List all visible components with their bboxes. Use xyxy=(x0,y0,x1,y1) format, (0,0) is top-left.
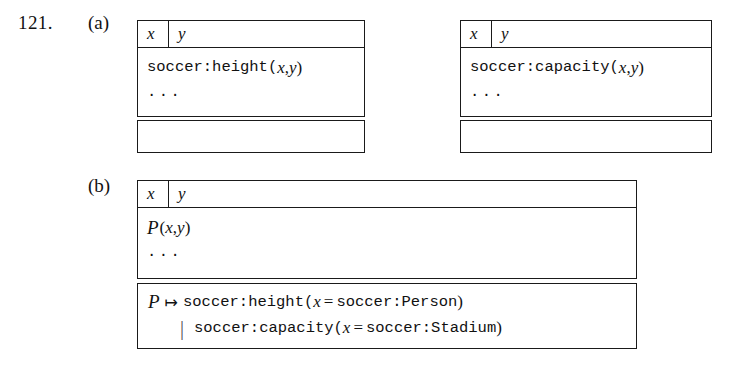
table-predicate-variable-relation: x y P(x, y) ... P↦soccer:height(x=soccer… xyxy=(137,180,637,349)
table-capacity-relation: x y soccer:capacity(x, y) ... xyxy=(460,20,712,153)
atom-arg1: x xyxy=(165,219,173,236)
table-capacity-footer xyxy=(460,120,712,153)
atom-arg1: x xyxy=(277,59,285,76)
rule-variable: x xyxy=(343,318,351,338)
atom-prefix: soccer:capacity( xyxy=(470,60,619,76)
atom-suffix: ) xyxy=(297,59,303,76)
equals-sign: = xyxy=(321,292,337,312)
rule-functor: soccer:capacity( xyxy=(194,319,343,337)
column-header-x: x xyxy=(461,21,492,47)
rule-close-paren: ) xyxy=(496,318,502,338)
atom-close-paren: ) xyxy=(185,219,191,236)
table-row: soccer:height(x, y) xyxy=(147,55,355,80)
figure-page: { "figure": { "number": "121.", "sub_lab… xyxy=(0,0,744,386)
atom-arg2: y xyxy=(177,219,185,236)
table-predicate-main: x y P(x, y) ... xyxy=(137,180,637,279)
rule-variable: x xyxy=(313,292,321,312)
sub-figure-label-a: (a) xyxy=(88,12,109,34)
equals-sign: = xyxy=(350,318,366,338)
rule-lhs-predicate-variable: P xyxy=(148,291,161,313)
table-height-header-row: x y xyxy=(138,21,364,48)
column-header-x: x xyxy=(138,21,169,47)
atom-predicate-variable: P xyxy=(147,218,160,237)
rule-value: soccer:Stadium xyxy=(366,319,496,337)
column-header-y: y xyxy=(169,21,364,47)
rule-close-paren: ) xyxy=(457,292,463,312)
table-height-footer-content xyxy=(138,121,364,147)
table-predicate-header-row: x y xyxy=(138,181,636,208)
atom-suffix: ) xyxy=(638,59,644,76)
rule-value: soccer:Person xyxy=(336,293,457,311)
atom-arg1: x xyxy=(619,59,627,76)
atom-arg2: y xyxy=(289,59,297,76)
table-row-ellipsis: ... xyxy=(147,240,627,265)
sub-figure-label-b: (b) xyxy=(88,175,110,197)
table-height-main: x y soccer:height(x, y) ... xyxy=(137,20,365,117)
table-capacity-main: x y soccer:capacity(x, y) ... xyxy=(460,20,712,117)
table-height-body: soccer:height(x, y) ... xyxy=(138,48,364,116)
table-capacity-body: soccer:capacity(x, y) ... xyxy=(461,48,711,116)
table-row: P(x, y) xyxy=(147,215,627,240)
column-header-x: x xyxy=(138,181,169,207)
table-capacity-header-row: x y xyxy=(461,21,711,48)
figure-number: 121. xyxy=(18,12,53,34)
atom-arg2: y xyxy=(631,59,639,76)
rule-line-primary: P↦soccer:height(x=soccer:Person) xyxy=(138,289,636,315)
table-height-footer xyxy=(137,120,365,153)
column-header-y: y xyxy=(492,21,711,47)
table-predicate-footer-rule: P↦soccer:height(x=soccer:Person) |soccer… xyxy=(137,283,637,349)
table-predicate-body: P(x, y) ... xyxy=(138,208,636,278)
table-height-relation: x y soccer:height(x, y) ... xyxy=(137,20,365,153)
rule-functor: soccer:height( xyxy=(183,293,313,311)
table-row: soccer:capacity(x, y) xyxy=(470,55,702,80)
table-row-ellipsis: ... xyxy=(470,80,702,105)
rule-line-alternative: |soccer:capacity(x=soccer:Stadium) xyxy=(138,315,636,341)
atom-prefix: soccer:height( xyxy=(147,60,277,76)
column-header-y: y xyxy=(169,181,636,207)
table-capacity-footer-content xyxy=(461,121,711,147)
alternative-bar: | xyxy=(180,317,194,340)
table-row-ellipsis: ... xyxy=(147,80,355,105)
maps-to-icon: ↦ xyxy=(161,293,183,312)
